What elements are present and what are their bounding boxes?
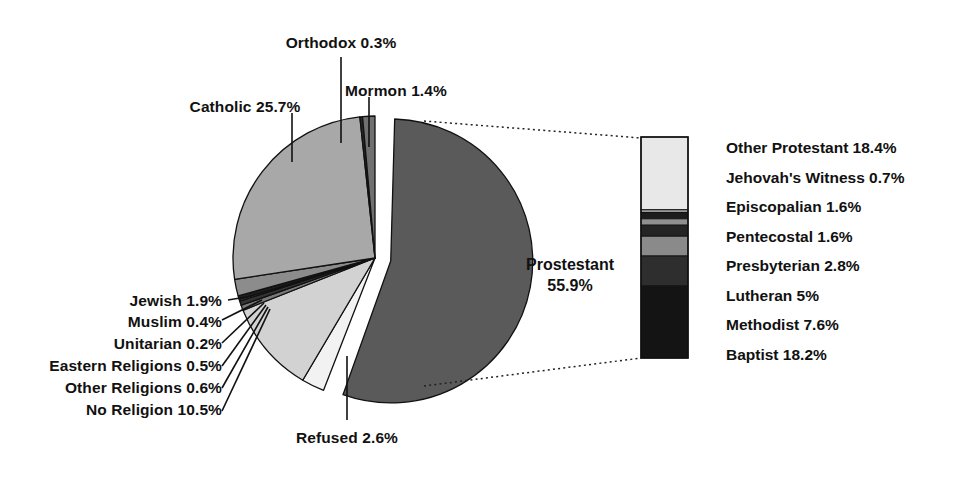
religion-affiliation-chart: Orthodox 0.3% Mormon 1.4% Catholic 25.7%…: [0, 0, 973, 486]
label-other-religions: Other Religions 0.6%: [65, 379, 222, 396]
label-jewish: Jewish 1.9%: [130, 292, 223, 309]
label-orthodox: Orthodox 0.3%: [286, 34, 397, 51]
legend-label-other-protestant: Other Protestant 18.4%: [726, 139, 897, 156]
legend-label-pentecostal: Pentecostal 1.6%: [726, 228, 853, 245]
legend-label-methodist: Methodist 7.6%: [726, 316, 839, 333]
label-muslim: Muslim 0.4%: [128, 313, 222, 330]
legend-label-jehovah-s-witness: Jehovah's Witness 0.7%: [726, 169, 905, 186]
label-unitarian: Unitarian 0.2%: [114, 335, 222, 352]
label-refused: Refused 2.6%: [296, 429, 398, 446]
bar-segment-methodist: [641, 256, 688, 286]
label-mormon: Mormon 1.4%: [345, 82, 447, 99]
legend-label-episcopalian: Episcopalian 1.6%: [726, 198, 861, 215]
legend-label-presbyterian: Presbyterian 2.8%: [726, 257, 860, 274]
label-protestant-name: Prostestant: [526, 256, 615, 273]
bar-segment-pentecostal: [641, 219, 688, 225]
protestant-breakout-bar: [641, 137, 688, 358]
label-catholic: Catholic 25.7%: [190, 98, 301, 115]
bar-segment-other-protestant: [641, 137, 688, 210]
bar-segment-episcopalian: [641, 213, 688, 219]
pie-chart-figure: Orthodox 0.3% Mormon 1.4% Catholic 25.7%…: [0, 0, 973, 486]
label-no-religion: No Religion 10.5%: [86, 401, 222, 418]
bar-segment-baptist: [641, 286, 688, 358]
label-eastern-religions: Eastern Religions 0.5%: [49, 357, 222, 374]
legend-label-lutheran: Lutheran 5%: [726, 287, 819, 304]
bar-segment-lutheran: [641, 236, 688, 256]
bar-segment-presbyterian: [641, 225, 688, 236]
legend-label-baptist: Baptist 18.2%: [726, 346, 827, 363]
label-protestant-value: 55.9%: [547, 277, 592, 294]
